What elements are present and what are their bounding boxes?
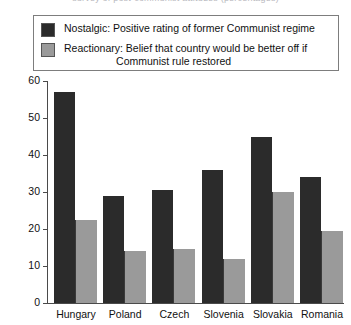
bar-group: Slovenia xyxy=(202,81,245,303)
y-axis-tick: 60 xyxy=(43,81,48,82)
y-axis-tick-label: 10 xyxy=(28,259,40,271)
y-axis-tick: 0 xyxy=(43,303,48,304)
y-axis-tick-label: 20 xyxy=(28,222,40,234)
y-axis-tick-label: 50 xyxy=(28,111,40,123)
y-axis-tick: 50 xyxy=(43,118,48,119)
bar-reactionary xyxy=(223,259,245,303)
bar-group: Hungary xyxy=(54,81,97,303)
y-axis-tick: 20 xyxy=(43,229,48,230)
y-axis-tick-label: 60 xyxy=(28,74,40,86)
bar-nostalgic xyxy=(202,170,223,303)
x-axis-category-label: Romania xyxy=(279,308,351,320)
bar-reactionary xyxy=(173,249,195,303)
legend-label-nostalgic-line1: Nostalgic: Positive rating of former Com… xyxy=(64,22,315,34)
bar-group: Romania xyxy=(300,81,343,303)
bar-nostalgic xyxy=(152,190,173,303)
legend-item-nostalgic: Nostalgic: Positive rating of former Com… xyxy=(34,22,338,37)
legend-swatch-nostalgic-icon xyxy=(41,23,55,37)
legend-label-reactionary-line1: Reactionary: Belief that country would b… xyxy=(64,42,307,54)
legend-swatch-reactionary-icon xyxy=(41,43,55,57)
y-axis-tick: 40 xyxy=(43,155,48,156)
x-axis-line xyxy=(47,303,344,304)
plot-area: Percentage 6050403020100 HungaryPolandCz… xyxy=(48,81,344,303)
legend-label-nostalgic: Nostalgic: Positive rating of former Com… xyxy=(64,22,315,35)
chart-legend: Nostalgic: Positive rating of former Com… xyxy=(33,15,339,71)
y-axis-tick-label: 40 xyxy=(28,148,40,160)
bar-nostalgic xyxy=(251,137,272,304)
bar-group: Poland xyxy=(103,81,146,303)
legend-label-reactionary: Reactionary: Belief that country would b… xyxy=(64,42,307,67)
y-axis-tick-label: 0 xyxy=(34,296,40,308)
bar-reactionary xyxy=(124,251,146,303)
bar-group: Slovakia xyxy=(251,81,294,303)
cropped-title-text: survey of post-communist attitudes (perc… xyxy=(0,0,351,3)
legend-label-reactionary-line2: Communist rule restored xyxy=(64,55,307,68)
bar-nostalgic xyxy=(103,196,124,303)
bar-reactionary xyxy=(321,231,343,303)
bar-reactionary xyxy=(272,192,294,303)
y-axis-tick-label: 30 xyxy=(28,185,40,197)
y-axis-tick: 10 xyxy=(43,266,48,267)
bar-group: Czech xyxy=(152,81,195,303)
bar-nostalgic xyxy=(300,177,321,303)
bar-reactionary xyxy=(75,220,97,303)
cropped-title-remnant: survey of post-communist attitudes (perc… xyxy=(0,0,351,7)
bar-nostalgic xyxy=(54,92,75,303)
legend-item-reactionary: Reactionary: Belief that country would b… xyxy=(34,42,338,67)
y-axis-tick: 30 xyxy=(43,192,48,193)
